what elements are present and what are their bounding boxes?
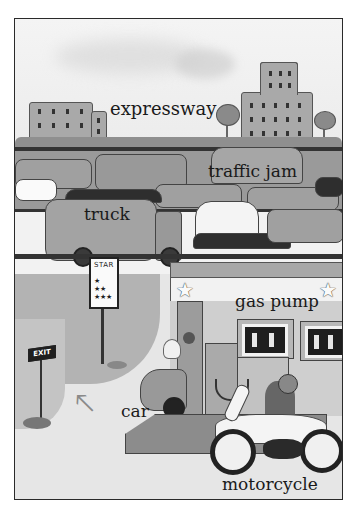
- sign-pole: [101, 309, 104, 364]
- exit-sign-pole: [40, 359, 42, 424]
- driver-head: [163, 339, 181, 359]
- star-icon: ★: [176, 280, 194, 300]
- white-car: [15, 179, 57, 201]
- cloud: [175, 49, 235, 79]
- car: [267, 209, 343, 243]
- label-expressway: expressway: [110, 99, 216, 119]
- lower-railing: [15, 254, 342, 259]
- label-truck: truck: [84, 204, 130, 224]
- flowers: [107, 361, 127, 369]
- building-tower: [260, 62, 298, 95]
- arrow-icon: 🡔: [75, 381, 95, 432]
- illustration-frame: STAR ★★★★★★ EXIT 🡔 ★ ★: [14, 18, 343, 500]
- flowers: [23, 417, 51, 429]
- label-motorcycle: motorcycle: [222, 474, 318, 494]
- rider-head: [278, 374, 298, 394]
- motorcycle-front-wheel: [210, 429, 256, 475]
- tree: [216, 104, 240, 126]
- label-gas-pump: gas pump: [235, 291, 319, 311]
- motorcycle-rear-wheel: [300, 429, 343, 473]
- star-icon: ★: [319, 280, 337, 300]
- motorcycle-engine: [263, 439, 303, 459]
- dark-car: [315, 177, 343, 197]
- tree: [314, 111, 336, 130]
- star-sign-text: STAR: [94, 261, 114, 269]
- label-car: car: [121, 401, 149, 421]
- pump-display: [242, 324, 288, 356]
- star-sign: STAR ★★★★★★: [89, 257, 119, 309]
- pump-display: [305, 326, 343, 358]
- star-icon: ★★★★★★: [94, 277, 112, 301]
- gas-pump: [300, 321, 343, 361]
- gas-pump: [237, 319, 294, 359]
- building-left: [29, 102, 93, 142]
- label-traffic-jam: traffic jam: [208, 161, 297, 181]
- pillar-light: [183, 332, 195, 344]
